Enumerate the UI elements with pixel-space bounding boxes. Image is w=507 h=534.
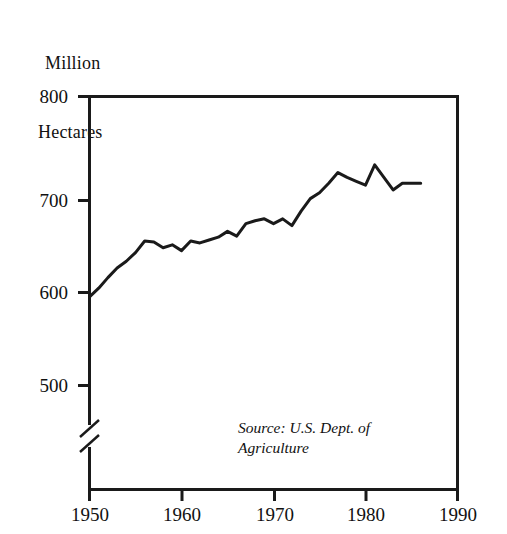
y-tick-marks [78, 97, 89, 386]
source-line-1: Source: U.S. Dept. of [238, 418, 448, 438]
data-series-line [90, 165, 421, 297]
x-tick-label-1990: 1990 [423, 505, 493, 524]
x-tick-label-1980: 1980 [331, 505, 401, 524]
source-annotation: Source: U.S. Dept. of Agriculture [238, 418, 448, 458]
chart-figure: Million Hectares [0, 0, 507, 534]
source-line-2: Agriculture [238, 438, 448, 458]
x-tick-label-1960: 1960 [147, 505, 217, 524]
x-tick-label-1970: 1970 [240, 505, 310, 524]
y-tick-label-800: 800 [8, 87, 68, 106]
y-tick-label-500: 500 [8, 376, 68, 395]
y-tick-label-600: 600 [8, 283, 68, 302]
y-tick-label-700: 700 [8, 191, 68, 210]
x-tick-label-1950: 1950 [55, 505, 125, 524]
